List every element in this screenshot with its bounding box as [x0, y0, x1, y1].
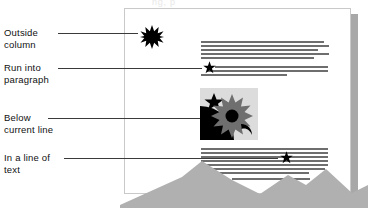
body-text-line: [201, 45, 329, 47]
callout-label-run-into-paragraph: Run into paragraph: [4, 62, 49, 86]
burst-outside-column-icon: [140, 25, 164, 49]
body-text-line: [201, 164, 328, 166]
page-shadow-right: [351, 14, 358, 194]
body-text-line: [201, 152, 328, 154]
figure-root: ng, p Outside column Run into paragraph …: [0, 0, 368, 208]
body-text-line: [201, 168, 325, 170]
sun-core-shape: [226, 110, 239, 123]
body-text-line: [201, 156, 328, 158]
body-text-line: [201, 160, 328, 162]
leader-line-in-a-line-of-text: [64, 158, 278, 159]
star-in-a-line-of-text-icon: [280, 151, 293, 164]
body-text-line: [201, 74, 287, 76]
body-text-line: [201, 57, 314, 59]
body-text-line: [215, 66, 328, 68]
art-box-contents: [200, 88, 258, 140]
callout-label-outside-column: Outside column: [4, 27, 38, 51]
callout-label-in-a-line-of-text: In a line of text: [4, 152, 50, 176]
callout-label-below-current-line: Below current line: [4, 112, 53, 136]
body-text-line: [201, 53, 329, 55]
body-text-line: [201, 172, 309, 174]
body-text-line: [201, 41, 324, 43]
art-box-below-current-line: [200, 88, 258, 140]
body-text-line: [201, 49, 318, 51]
leader-line-below-current-line: [48, 118, 202, 119]
body-text-line: [232, 178, 310, 180]
cropped-title-remnant: ng, p: [152, 0, 176, 7]
leader-line-run-into-paragraph: [58, 68, 202, 69]
star-run-into-paragraph-icon: [203, 61, 216, 74]
body-text-line: [201, 148, 328, 150]
body-text-line: [207, 70, 328, 72]
leader-line-outside-column: [58, 33, 138, 34]
